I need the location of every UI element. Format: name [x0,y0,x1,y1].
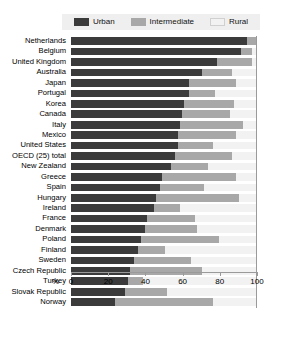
bar-segment-intermediate [145,225,197,233]
bar-segment-rural [219,236,256,244]
bar-row [71,161,256,171]
category-label: New Zealand [0,161,69,171]
bar-row [71,57,256,67]
bar-segment-intermediate [180,121,243,129]
category-labels-column: NetherlandsBelgiumUnited KingdomAustrali… [0,36,69,308]
category-label: Greece [0,172,69,182]
bar-segment-rural [204,184,256,192]
stacked-bar [71,152,256,160]
bar-segment-intermediate [171,163,208,171]
bar-segment-rural [230,110,256,118]
stacked-bar [71,110,256,118]
stacked-bar [71,184,256,192]
bar-segment-intermediate [241,48,252,56]
bar-segment-intermediate [115,298,213,306]
stacked-bar [71,121,256,129]
bar-row [71,193,256,203]
axis-tick-label: 20 [104,277,113,286]
bar-segment-rural [215,90,256,98]
category-label: Japan [0,78,69,88]
bar-row [71,120,256,130]
axis-tick-label: 40 [141,277,150,286]
category-label: Belgium [0,46,69,56]
bar-segment-urban [71,90,189,98]
bar-segment-intermediate [154,204,180,212]
bar-segment-intermediate [175,152,232,160]
x-axis: 020406080100 [71,272,257,294]
legend-label: Urban [93,18,115,26]
bar-row [71,67,256,77]
bar-segment-urban [71,225,145,233]
bar-row [71,213,256,223]
category-label: Portugal [0,88,69,98]
bar-row [71,140,256,150]
bar-segment-rural [232,69,256,77]
bar-segment-intermediate [147,215,195,223]
bar-segment-urban [71,121,180,129]
bar-segment-rural [191,257,256,265]
category-label: United Kingdom [0,57,69,67]
bar-segment-intermediate [217,58,252,66]
stacked-bar [71,131,256,139]
category-label: Hungary [0,193,69,203]
category-label: Denmark [0,224,69,234]
axis-tick-label: 0 [69,277,73,286]
axis-tick [220,272,221,276]
bar-segment-rural [236,173,256,181]
bar-segment-rural [213,142,256,150]
axis-tick [108,272,109,276]
square-swatch-icon [74,18,89,26]
bar-segment-rural [236,131,256,139]
bar-segment-urban [71,142,178,150]
category-label: Italy [0,120,69,130]
bar-segment-rural [165,246,256,254]
bar-segment-urban [71,79,189,87]
bar-segment-intermediate [141,236,219,244]
bar-segment-rural [232,152,256,160]
square-swatch-icon [131,18,146,26]
category-label: United States [0,140,69,150]
bar-segment-intermediate [202,69,232,77]
bar-segment-intermediate [182,110,230,118]
bar-segment-urban [71,194,156,202]
bar-segment-urban [71,110,182,118]
category-label: Slovak Republic [0,287,69,297]
bar-segment-urban [71,215,147,223]
axis-tick [257,272,258,276]
bar-segment-urban [71,37,247,45]
stacked-bar [71,100,256,108]
stacked-bar [71,204,256,212]
bar-segment-intermediate [162,173,236,181]
bar-segment-urban [71,163,171,171]
bar-row [71,297,256,307]
category-label: OECD (25) total [0,151,69,161]
bar-row [71,46,256,56]
category-label: France [0,213,69,223]
bar-segment-rural [239,194,256,202]
stacked-bar [71,246,256,254]
bar-segment-rural [208,163,256,171]
legend-entry: Urban [74,18,115,26]
bar-row [71,88,256,98]
bar-segment-intermediate [184,100,234,108]
category-label: Canada [0,109,69,119]
category-label: Netherlands [0,36,69,46]
bar-segment-intermediate [189,79,235,87]
category-label: Norway [0,297,69,307]
stacked-bar [71,236,256,244]
axis-tick [183,272,184,276]
stacked-bar [71,225,256,233]
stacked-bar [71,69,256,77]
bar-segment-rural [195,215,256,223]
stacked-bar [71,215,256,223]
stacked-bar [71,298,256,306]
bar-segment-urban [71,173,162,181]
bar-row [71,99,256,109]
axis-tick-label: 80 [215,277,224,286]
bar-segment-intermediate [178,142,213,150]
bar-segment-urban [71,69,202,77]
category-label: Finland [0,245,69,255]
bar-segment-rural [252,48,256,56]
bar-segment-intermediate [138,246,166,254]
bar-segment-intermediate [178,131,235,139]
